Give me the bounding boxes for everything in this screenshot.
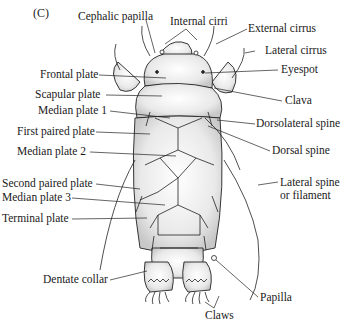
label-median-plate-3: Median plate 3 xyxy=(2,191,71,204)
label-lateral-cirrus: Lateral cirrus xyxy=(265,44,327,57)
label-frontal-plate: Frontal plate xyxy=(40,68,98,81)
label-terminal-plate: Terminal plate xyxy=(2,212,69,225)
label-internal-cirri: Internal cirri xyxy=(170,15,228,28)
label-median-plate-1: Median plate 1 xyxy=(38,104,107,117)
label-dentate-collar: Dentate collar xyxy=(43,273,108,286)
label-dorsolateral-spine: Dorsolateral spine xyxy=(256,117,340,130)
label-scapular-plate: Scapular plate xyxy=(35,88,100,101)
label-cephalic-papilla: Cephalic papilla xyxy=(78,10,153,23)
panel-label: (C) xyxy=(33,6,49,21)
label-eyespot: Eyespot xyxy=(281,63,318,76)
label-external-cirrus: External cirrus xyxy=(248,22,316,35)
label-claws: Claws xyxy=(205,309,234,322)
label-clava: Clava xyxy=(285,94,312,107)
label-lateral-spine-2: or filament xyxy=(280,189,331,202)
label-dorsal-spine: Dorsal spine xyxy=(272,144,330,157)
label-lateral-spine-1: Lateral spine xyxy=(280,176,340,189)
label-second-paired-plate: Second paired plate xyxy=(2,177,93,190)
label-papilla: Papilla xyxy=(260,291,292,304)
label-first-paired-plate: First paired plate xyxy=(17,125,95,138)
label-median-plate-2: Median plate 2 xyxy=(17,145,86,158)
